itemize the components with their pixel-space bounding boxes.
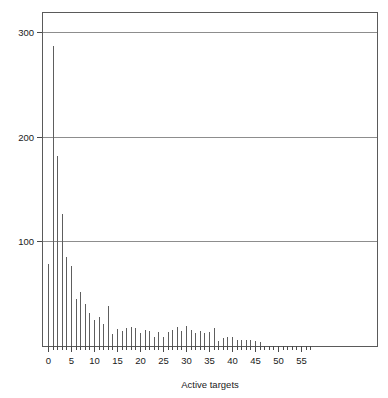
y-tick-label-300: 300 (18, 27, 34, 38)
x-tick-label-30: 30 (181, 355, 192, 366)
x-tick-label-5: 5 (69, 355, 74, 366)
x-tick-label-15: 15 (112, 355, 123, 366)
x-tick-label-20: 20 (135, 355, 146, 366)
x-tick-label-35: 35 (204, 355, 215, 366)
x-tick-label-45: 45 (250, 355, 261, 366)
y-tick-label-200: 200 (18, 132, 34, 143)
chart-background (0, 0, 388, 398)
y-tick-label-100: 100 (18, 236, 34, 247)
chart-figure: 100200300 0510152025303540455055 Active … (0, 0, 388, 398)
x-tick-label-40: 40 (227, 355, 238, 366)
x-tick-label-0: 0 (46, 355, 51, 366)
x-tick-label-55: 55 (296, 355, 307, 366)
active-targets-histogram: 100200300 0510152025303540455055 Active … (0, 0, 388, 398)
x-tick-label-25: 25 (158, 355, 169, 366)
x-tick-label-50: 50 (273, 355, 284, 366)
x-axis-title: Active targets (181, 379, 239, 390)
x-tick-label-10: 10 (89, 355, 100, 366)
